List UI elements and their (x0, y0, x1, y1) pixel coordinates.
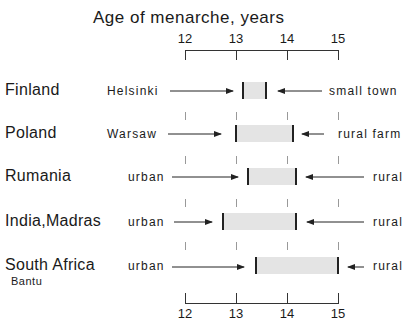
arrows-layer (0, 0, 413, 325)
